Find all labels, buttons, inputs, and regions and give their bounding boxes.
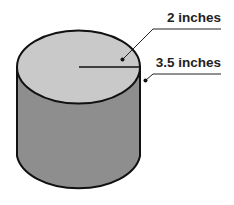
height-label: 3.5 inches (156, 55, 221, 70)
height-leader-dot (144, 79, 148, 83)
radius-leader-dot (121, 58, 125, 62)
height-leader-line (146, 74, 221, 80)
cylinder-diagram: 2 inches 3.5 inches (0, 0, 234, 205)
radius-label: 2 inches (167, 10, 221, 25)
